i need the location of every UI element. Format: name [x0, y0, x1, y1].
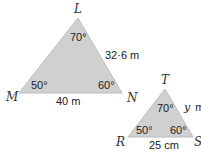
angle-t: 70° [157, 102, 174, 114]
angle-r: 50° [136, 124, 153, 136]
similar-triangles-diagram: L M N 70° 50° 60° 32·6 m 40 m T R S 70° … [0, 0, 201, 160]
side-ts-length: y m [183, 97, 201, 114]
side-mn-length: 40 m [56, 95, 80, 107]
angle-l: 70° [70, 31, 87, 43]
vertex-label-r: R [115, 135, 125, 149]
side-ts-unit: m [195, 101, 201, 113]
vertex-label-s: S [194, 135, 201, 149]
vertex-label-m: M [5, 90, 19, 104]
vertex-label-t: T [161, 73, 170, 87]
vertex-label-n: N [126, 91, 138, 105]
side-rs-length: 25 cm [149, 139, 179, 151]
vertex-label-l: L [73, 2, 82, 16]
angle-m: 50° [31, 79, 48, 91]
angle-n: 60° [98, 79, 115, 91]
side-ts-variable: y [183, 101, 191, 114]
side-ln-length: 32·6 m [105, 49, 139, 61]
angle-s: 60° [170, 124, 187, 136]
